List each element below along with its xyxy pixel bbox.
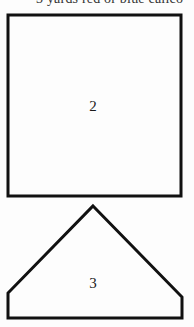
pattern-piece-2-label: 2 (89, 98, 97, 115)
pattern-piece-3-label: 3 (89, 275, 97, 292)
pattern-piece-3-outline (8, 206, 182, 318)
pattern-diagram (0, 0, 194, 327)
pattern-page: 3 yards red or blue calico 2 3 (0, 0, 194, 327)
